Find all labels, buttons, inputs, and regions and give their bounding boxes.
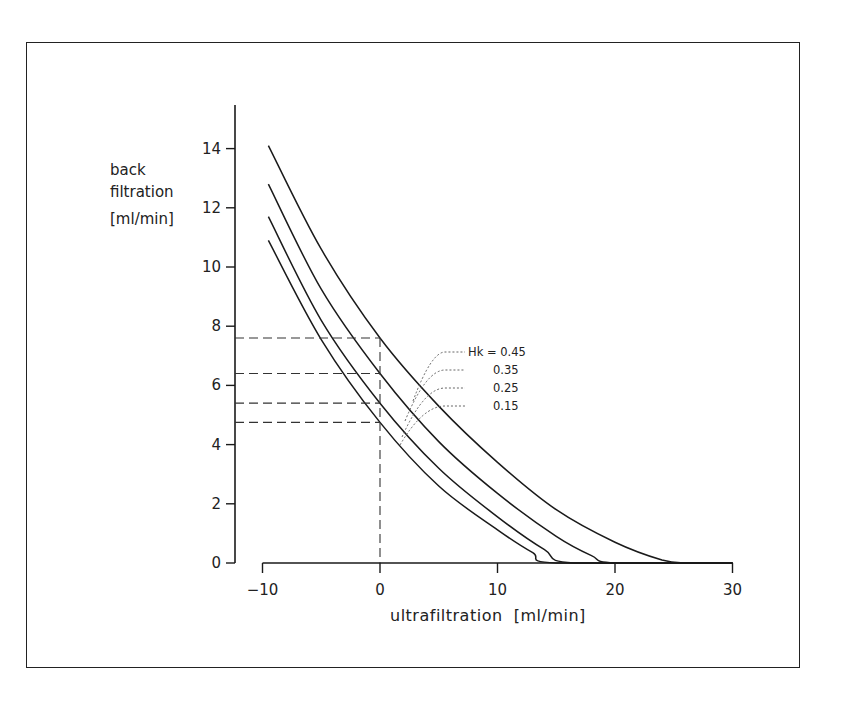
y-tick-label: 0	[211, 554, 221, 572]
legend-label-hk: 0.35	[493, 363, 519, 377]
y-tick-label: 2	[211, 495, 221, 513]
y-tick-label: 10	[202, 258, 221, 276]
x-tick-label: 30	[723, 581, 742, 599]
legend-label-hk: Hk = 0.45	[468, 345, 526, 359]
y-tick-label: 8	[211, 317, 221, 335]
x-tick-label: 20	[605, 581, 624, 599]
legend-leader-line	[413, 352, 465, 401]
chart-plot: 02468101214−100102030Hk = 0.450.350.250.…	[0, 0, 853, 703]
y-tick-label: 12	[202, 199, 221, 217]
legend-label-hk: 0.25	[493, 381, 519, 395]
x-axis-label: ultrafiltration [ml/min]	[390, 606, 586, 625]
legend-leader-line	[405, 370, 465, 421]
x-tick-label: 10	[488, 581, 507, 599]
legend-label-hk: 0.15	[493, 399, 519, 413]
x-tick-label: −10	[247, 581, 279, 599]
x-tick-label: 0	[375, 581, 385, 599]
y-tick-label: 6	[211, 376, 221, 394]
y-tick-label: 4	[211, 436, 221, 454]
y-tick-label: 14	[202, 140, 221, 158]
